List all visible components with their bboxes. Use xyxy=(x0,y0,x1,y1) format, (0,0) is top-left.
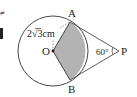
edge-fragment-top: ≠ xyxy=(0,8,5,18)
angle-arc-p xyxy=(112,48,113,55)
angle-label: 60° xyxy=(96,47,109,57)
shaded-region xyxy=(53,22,85,80)
label-b: B xyxy=(68,83,75,95)
edge-fragment-mid xyxy=(0,28,3,39)
label-a: A xyxy=(68,7,76,19)
center-dot xyxy=(52,50,55,53)
radius-unit: cm xyxy=(43,28,55,39)
radius-label: 2√3cm xyxy=(27,28,55,39)
geometry-diagram: ≠ A B O P 2√3cm 60° xyxy=(0,0,137,97)
label-o: O xyxy=(42,45,50,57)
label-p: P xyxy=(121,45,127,57)
